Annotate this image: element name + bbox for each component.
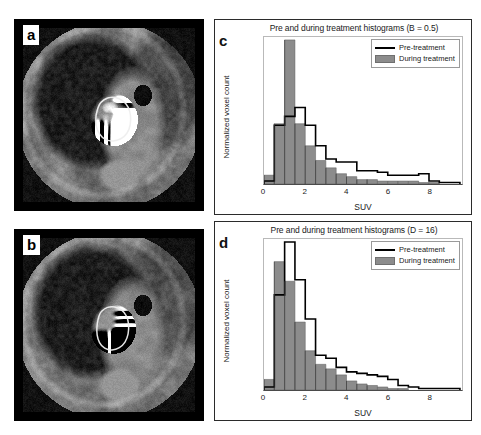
figure-root: a b c Pre and during treatment histogram…	[0, 0, 481, 435]
x-tick-label: 4	[344, 187, 348, 196]
y-axis-label-c: Normalized voxel count	[222, 57, 231, 177]
scan-panel-a: a	[14, 19, 204, 211]
scan-panel-b: b	[14, 229, 204, 421]
legend-item-pre-treatment-d: Pre-treatment	[375, 244, 455, 255]
line-swatch-icon	[375, 44, 395, 52]
x-tick-label: 8	[427, 187, 431, 196]
legend-label-pre-treatment: Pre-treatment	[399, 246, 445, 254]
x-tick-label: 6	[386, 187, 390, 196]
legend-item-during-treatment-c: During treatment	[375, 53, 455, 64]
legend-c: Pre-treatment During treatment	[371, 39, 460, 68]
chart-title-c: Pre and during treatment histograms (B =…	[241, 23, 467, 33]
pet-ct-scan-image-b	[14, 229, 204, 421]
x-tick-label: 2	[302, 187, 306, 196]
panel-label-a: a	[23, 25, 39, 45]
panel-label-c: c	[219, 33, 227, 48]
legend-item-pre-treatment-c: Pre-treatment	[375, 42, 455, 53]
pet-ct-scan-image-a	[14, 19, 204, 211]
legend-label-during-treatment: During treatment	[399, 55, 455, 63]
x-tick-label: 0	[261, 187, 265, 196]
legend-label-during-treatment: During treatment	[399, 257, 455, 265]
legend-d: Pre-treatment During treatment	[371, 241, 460, 270]
panel-label-b: b	[23, 235, 40, 255]
y-axis-label-d: Normalized voxel count	[222, 261, 231, 381]
x-tick-label: 8	[427, 393, 431, 402]
x-tick-label: 4	[344, 393, 348, 402]
x-tick-label: 0	[261, 393, 265, 402]
line-swatch-icon	[375, 246, 395, 254]
legend-item-during-treatment-d: During treatment	[375, 255, 455, 266]
x-axis-label-d: SUV	[263, 408, 463, 418]
legend-label-pre-treatment: Pre-treatment	[399, 44, 445, 52]
chart-title-d: Pre and during treatment histograms (D =…	[241, 225, 467, 235]
histogram-panel-d: d Pre and during treatment histograms (D…	[214, 221, 472, 421]
x-axis-label-c: SUV	[263, 202, 463, 212]
box-swatch-icon	[375, 55, 395, 63]
x-tick-label: 6	[386, 393, 390, 402]
panel-label-d: d	[219, 235, 228, 250]
x-tick-label: 2	[302, 393, 306, 402]
histogram-panel-c: c Pre and during treatment histograms (B…	[214, 19, 472, 215]
box-swatch-icon	[375, 257, 395, 265]
